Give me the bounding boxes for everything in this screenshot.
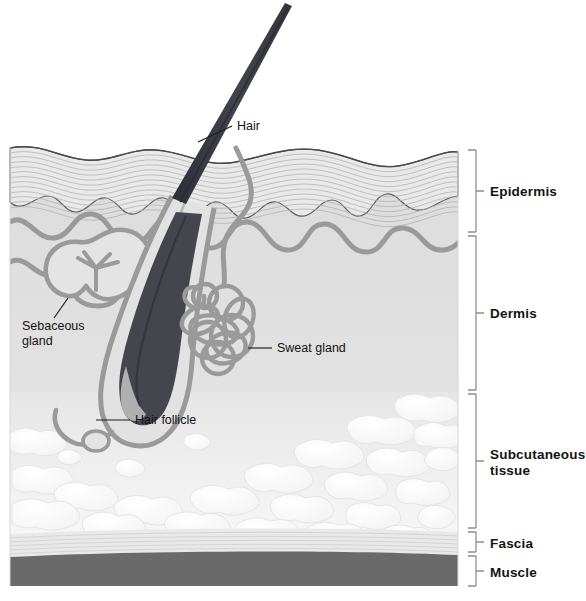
bracket-epidermis: Epidermis: [468, 150, 557, 232]
layer-bracket-group: Epidermis Dermis Subcutaneous tissue Fas…: [468, 150, 585, 586]
structure-label-hair: Hair: [237, 119, 260, 133]
diagram-canvas: Epidermis Dermis Subcutaneous tissue Fas…: [0, 0, 586, 601]
bracket-dermis: Dermis: [468, 236, 537, 390]
bracket-subcutaneous: Subcutaneous tissue: [468, 394, 585, 528]
layer-label-subcutaneous-line2: tissue: [490, 463, 531, 478]
layer-label-muscle: Muscle: [490, 565, 537, 580]
structure-label-sweat-gland: Sweat gland: [277, 341, 346, 355]
structure-label-sebaceous-gland-line2: gland: [22, 334, 53, 348]
skin-block: [7, 3, 466, 586]
layer-label-epidermis: Epidermis: [490, 184, 557, 199]
muscle-fill: [10, 551, 458, 586]
layer-label-dermis: Dermis: [490, 306, 537, 321]
dermal-papilla: [83, 431, 109, 451]
structure-label-hair-follicle: Hair follicle: [135, 413, 196, 427]
layer-label-subcutaneous: Subcutaneous: [490, 447, 585, 462]
layer-label-fascia: Fascia: [490, 536, 534, 551]
structure-label-sebaceous-gland: Sebaceous: [22, 319, 85, 333]
muscle-layer: [10, 551, 458, 586]
skin-cross-section-figure: Epidermis Dermis Subcutaneous tissue Fas…: [0, 0, 586, 601]
bracket-fascia: Fascia: [468, 532, 534, 552]
bracket-muscle: Muscle: [468, 556, 537, 586]
